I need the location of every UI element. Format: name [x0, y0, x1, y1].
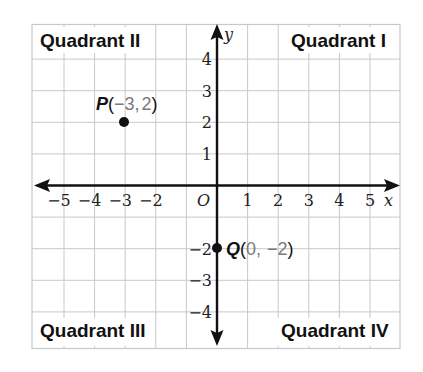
y-tick-label: 1	[202, 145, 212, 164]
y-axis-label: y	[223, 25, 234, 44]
x-tick-label: 2	[273, 191, 283, 210]
y-tick-label: 2	[202, 113, 212, 132]
y-tick-label: 3	[202, 82, 212, 101]
point-q-marker	[212, 243, 222, 253]
x-tick-label: −4	[78, 191, 102, 210]
point-p-label: P(−3,2)	[96, 94, 158, 114]
quadrant-iii-label: Quadrant III	[40, 320, 146, 341]
y-tick-label: 4	[202, 50, 212, 69]
x-tick-label: 1	[243, 191, 253, 210]
x-tick-label: −3	[108, 191, 132, 210]
coordinate-plane: Quadrant II Quadrant I Quadrant III Quad…	[0, 0, 423, 372]
x-axis-label: x	[384, 191, 393, 210]
quadrant-ii-label: Quadrant II	[40, 30, 140, 51]
y-tick-label: −4	[188, 303, 212, 322]
y-tick-label: −2	[188, 240, 212, 259]
x-tick-label: −5	[47, 191, 71, 210]
quadrant-i-label: Quadrant I	[291, 30, 386, 51]
point-p-marker	[119, 117, 129, 127]
x-tick-label: −2	[139, 191, 163, 210]
x-tick-label: 4	[334, 191, 344, 210]
y-tick-label: −3	[188, 271, 212, 290]
x-tick-label: 5	[365, 191, 375, 210]
quadrant-iv-label: Quadrant IV	[281, 320, 389, 341]
origin-label: O	[197, 191, 210, 210]
point-q-label: Q(0,−2)	[226, 239, 294, 259]
x-tick-label: 3	[304, 191, 314, 210]
